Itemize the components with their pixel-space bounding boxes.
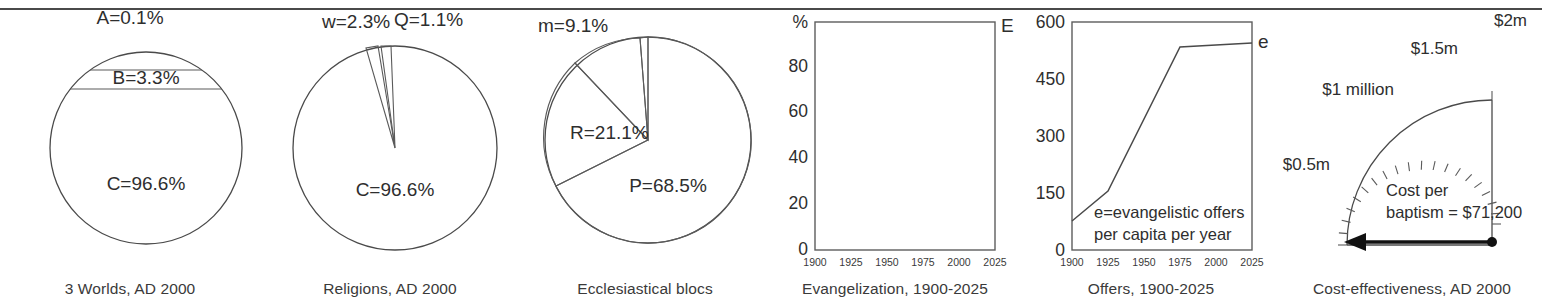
gauge-note-line-1: Cost per (1386, 181, 1449, 199)
ytick-80: 80 (789, 56, 809, 76)
panel-cost-effectiveness: $0.5m $1 million $1.5m $2m Cost per bapt… (1282, 0, 1542, 304)
ecclesiastical-pie: m=9.1% R=21.1% P=68.5% (520, 0, 770, 272)
ytick-60: 60 (789, 101, 809, 121)
series-label-e: e (1258, 31, 1269, 52)
xtick-1950: 1950 (875, 256, 899, 268)
xtick-2000: 2000 (1204, 256, 1228, 268)
xtick-1925: 1925 (1096, 256, 1120, 268)
ytick-450: 450 (1036, 69, 1065, 89)
gauge-label-1-5m: $1.5m (1411, 39, 1458, 58)
xtick-1900: 1900 (1060, 256, 1084, 268)
pie-slice-w (366, 46, 395, 148)
note-line-2: per capita per year (1094, 225, 1232, 243)
label-slice-w: w=2.3% (321, 11, 390, 32)
cost-effectiveness-gauge: $0.5m $1 million $1.5m $2m Cost per bapt… (1282, 0, 1542, 272)
ytick-unit: % (792, 12, 808, 32)
xtick-1900: 1900 (803, 256, 827, 268)
xtick-1975: 1975 (1168, 256, 1192, 268)
ytick-600: 600 (1036, 12, 1065, 32)
caption-three-worlds: 3 Worlds, AD 2000 (0, 280, 260, 298)
label-segment-b: B=3.3% (112, 67, 179, 88)
xtick-2000: 2000 (947, 256, 971, 268)
caption-religions: Religions, AD 2000 (260, 280, 520, 298)
label-slice-r: R=21.1% (570, 122, 649, 143)
offers-chart: 600 450 300 150 0 1900 1925 1950 1975 20… (1020, 0, 1282, 272)
caption-evangelization: Evangelization, 1900-2025 (770, 280, 1020, 298)
gauge-tick-group (1338, 91, 1501, 245)
evangelization-chart: % 80 60 40 20 0 1900 1925 1950 1975 2000… (770, 0, 1020, 272)
panel-evangelization: % 80 60 40 20 0 1900 1925 1950 1975 2000… (770, 0, 1020, 304)
caption-ecclesiastical-blocs: Ecclesiastical blocs (520, 280, 770, 298)
gauge-label-0-5m: $0.5m (1283, 155, 1330, 174)
caption-offers: Offers, 1900-2025 (1020, 280, 1282, 298)
panel-three-worlds: A=0.1% B=3.3% C=96.6% 3 Worlds, AD 2000 (0, 0, 260, 304)
three-worlds-diagram: A=0.1% B=3.3% C=96.6% (0, 0, 260, 272)
pie-slice-q (381, 46, 395, 148)
gauge-label-1m: $1 million (1322, 80, 1394, 99)
label-slice-p: P=68.5% (629, 175, 707, 196)
plot-frame (815, 22, 995, 250)
label-slice-q: Q=1.1% (394, 9, 463, 30)
label-slice-m: m=9.1% (538, 15, 608, 36)
gauge-pivot (1487, 237, 1497, 247)
ytick-150: 150 (1036, 183, 1065, 203)
gauge-note-line-2: baptism = $71,200 (1386, 203, 1522, 221)
label-segment-a: A=0.1% (96, 7, 163, 28)
xtick-1950: 1950 (1132, 256, 1156, 268)
xtick-2025: 2025 (1240, 256, 1264, 268)
religions-pie: w=2.3% Q=1.1% C=96.6% (260, 0, 520, 272)
label-slice-c: C=96.6% (356, 179, 435, 200)
xtick-2025: 2025 (983, 256, 1007, 268)
gauge-label-2m: $2m (1494, 11, 1527, 30)
ytick-40: 40 (789, 147, 809, 167)
xtick-1925: 1925 (839, 256, 863, 268)
caption-cost-effectiveness: Cost-effectiveness, AD 2000 (1282, 280, 1542, 298)
note-line-1: e=evangelistic offers (1094, 203, 1245, 221)
panel-offers: 600 450 300 150 0 1900 1925 1950 1975 20… (1020, 0, 1282, 304)
gauge-arc (1347, 100, 1492, 245)
xtick-1975: 1975 (911, 256, 935, 268)
data-series-e (1072, 43, 1252, 221)
ytick-20: 20 (789, 193, 809, 213)
series-label-E: E (1001, 15, 1014, 36)
label-segment-c: C=96.6% (107, 173, 186, 194)
ytick-300: 300 (1036, 126, 1065, 146)
figure-sheet: A=0.1% B=3.3% C=96.6% 3 Worlds, AD 2000 … (0, 0, 1542, 304)
panel-religions: w=2.3% Q=1.1% C=96.6% Religions, AD 2000 (260, 0, 520, 304)
panel-ecclesiastical-blocs: m=9.1% R=21.1% P=68.5% Ecclesiastical bl… (520, 0, 770, 304)
